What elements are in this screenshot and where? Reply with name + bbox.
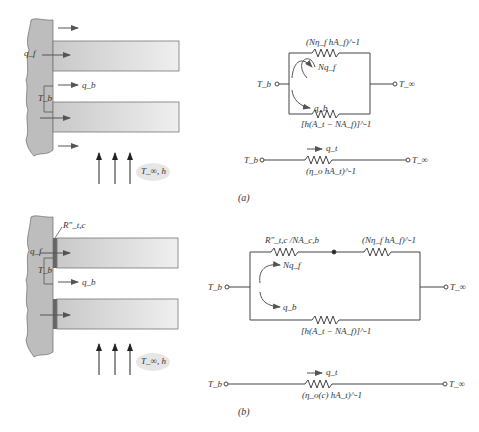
node-tb-eq-a: T_b bbox=[244, 156, 258, 165]
flow-qb-a: q_b bbox=[314, 104, 328, 113]
node-tinf-b: T_∞ bbox=[450, 283, 466, 292]
label-contact-resistance: R″_t,c bbox=[63, 221, 86, 230]
resistor-bottom-b: [h(A_t − NA_f)]^-1 bbox=[301, 327, 371, 336]
node-tb-b: T_b bbox=[208, 283, 222, 292]
flow-nqf-b: Nq_f bbox=[283, 261, 301, 270]
circuit-parallel-a bbox=[275, 49, 397, 118]
label-fluid-a: T_∞, h bbox=[141, 167, 166, 176]
fin-array-diagram bbox=[0, 0, 479, 432]
flow-qb-b: q_b bbox=[283, 303, 297, 312]
circuit-parallel-b bbox=[225, 248, 448, 324]
flow-qt-b: q_t bbox=[326, 368, 338, 377]
caption-b: (b) bbox=[238, 406, 250, 417]
node-tb-a: T_b bbox=[257, 80, 271, 89]
node-tinf-a: T_∞ bbox=[399, 80, 415, 89]
label-qf-a: q_f bbox=[24, 49, 36, 58]
label-qf-b: q_f bbox=[30, 247, 42, 256]
caption-a: (a) bbox=[238, 192, 250, 203]
flow-nqf-a: Nq_f bbox=[318, 63, 336, 72]
resistor-eq-b: (η_o(c) hA_t)^-1 bbox=[302, 391, 362, 400]
flow-qt-a: q_t bbox=[326, 144, 338, 153]
resistor-top-a: (Nη_f hA_f)^-1 bbox=[306, 38, 360, 47]
node-tb-eq-b: T_b bbox=[208, 380, 222, 389]
resistor-bottom-a: [h(A_t − NA_f)]^-1 bbox=[301, 120, 371, 129]
label-tb-a: T_b bbox=[38, 94, 52, 103]
node-tinf-eq-b: T_∞ bbox=[449, 380, 465, 389]
schematic-b bbox=[26, 216, 178, 375]
label-fluid-b: T_∞, h bbox=[141, 357, 166, 366]
node-tinf-eq-a: T_∞ bbox=[412, 156, 428, 165]
label-tb-b: T_b bbox=[38, 266, 52, 275]
resistor-fin-b: (Nη_f hA_f)^-1 bbox=[362, 236, 416, 245]
resistor-contact-b: R″_t,c /NA_c,b bbox=[265, 236, 319, 245]
label-qb-a: q_b bbox=[82, 81, 96, 90]
resistor-eq-a: (η_o hA_t)^-1 bbox=[306, 167, 356, 176]
label-qb-b: q_b bbox=[82, 278, 96, 287]
